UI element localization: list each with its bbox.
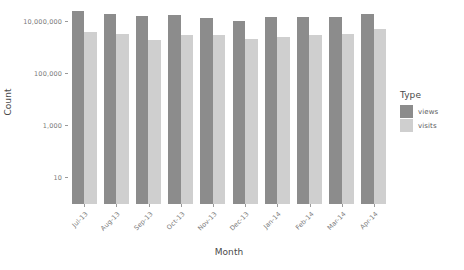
x-axis-tick-label-text: Aug-13 (99, 210, 122, 233)
legend-item-visits[interactable]: visits (400, 119, 464, 132)
x-axis-tick-label-text: Feb-14 (293, 210, 315, 232)
legend-swatch-views (400, 105, 413, 118)
bar-views (72, 11, 85, 204)
x-axis-tick-label-text: Jan-14 (262, 210, 283, 231)
y-axis-tick: 1,000 (43, 121, 68, 131)
x-axis-tick-mark (342, 204, 343, 207)
bar-visits (213, 35, 226, 204)
x-axis-tick-label-text: Dec-13 (228, 210, 250, 232)
x-axis-title: Month (68, 247, 390, 257)
bar-views (329, 17, 342, 204)
bar-group (72, 6, 97, 204)
legend-item-views[interactable]: views (400, 105, 464, 118)
x-axis-tick-label-text: Mar-14 (325, 210, 347, 232)
bar-group (104, 6, 129, 204)
bar-visits (245, 39, 258, 204)
bar-views (361, 14, 374, 204)
bar-group (136, 6, 161, 204)
y-axis-title: Count (0, 0, 16, 204)
x-axis-tick-label-text: Sep-13 (132, 210, 154, 232)
x-axis-tick-mark (245, 204, 246, 207)
legend: Type viewsvisits (400, 90, 464, 133)
y-axis: 10,000,000100,0001,00010 (16, 6, 68, 204)
bar-views (200, 18, 213, 204)
bar-group (200, 6, 225, 204)
bar-group (329, 6, 354, 204)
x-axis-title-text: Month (215, 247, 244, 257)
legend-swatch-visits (400, 119, 413, 132)
bar-visits (374, 29, 387, 204)
x-axis-tick-mark (277, 204, 278, 207)
y-axis-tick-label: 10,000,000 (23, 17, 62, 27)
x-axis-tick-mark (84, 204, 85, 207)
bar-views (136, 16, 149, 204)
x-axis-tick-label-text: Nov-13 (196, 210, 218, 232)
x-axis-tick-label-text: Jul-13 (71, 210, 90, 229)
y-axis-tick-label: 100,000 (34, 69, 62, 79)
x-axis: Jul-13Aug-13Sep-13Oct-13Nov-13Dec-13Jan-… (68, 204, 390, 246)
legend-items: viewsvisits (400, 105, 464, 132)
x-axis-tick-mark (181, 204, 182, 207)
legend-label-visits: visits (418, 122, 437, 130)
x-axis-tick-label-text: Oct-13 (165, 210, 187, 232)
y-axis-tick: 10 (53, 173, 68, 183)
x-axis-tick-mark (310, 204, 311, 207)
y-axis-tick: 100,000 (34, 69, 68, 79)
bar-views (233, 21, 246, 204)
plot-area (68, 6, 390, 204)
bar-views (297, 17, 310, 204)
bar-visits (342, 34, 355, 204)
x-axis-tick-label-text: Apr-14 (358, 210, 379, 231)
x-axis-tick-mark (213, 204, 214, 207)
x-axis-tick-mark (116, 204, 117, 207)
bar-visits (181, 35, 194, 204)
y-axis-tick-label: 1,000 (43, 121, 62, 131)
bar-views (168, 15, 181, 204)
bar-visits (277, 37, 290, 205)
bar-group (361, 6, 386, 204)
bar-views (265, 17, 278, 204)
legend-title: Type (400, 90, 464, 100)
bar-chart: Count 10,000,000100,0001,00010 Jul-13Aug… (0, 0, 464, 270)
bar-visits (84, 32, 97, 204)
bar-visits (148, 40, 161, 204)
x-axis-tick-mark (374, 204, 375, 207)
y-axis-tick: 10,000,000 (23, 17, 68, 27)
y-axis-tick-label: 10 (53, 173, 62, 183)
bar-group (233, 6, 258, 204)
bar-views (104, 14, 117, 204)
y-axis-title-text: Count (3, 88, 13, 115)
bar-visits (309, 35, 322, 204)
bar-group (297, 6, 322, 204)
legend-label-views: views (418, 108, 438, 116)
bar-group (265, 6, 290, 204)
bar-group (168, 6, 193, 204)
x-axis-tick-mark (149, 204, 150, 207)
bar-visits (116, 34, 129, 204)
